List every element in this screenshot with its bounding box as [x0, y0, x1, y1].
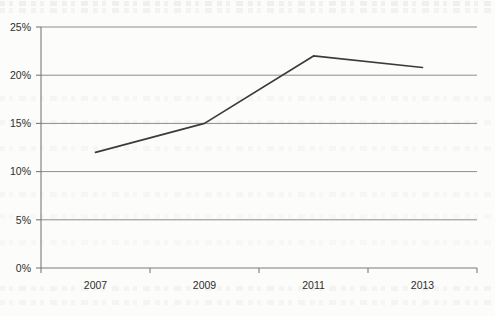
x-axis-tick-label: 2013: [411, 279, 435, 291]
y-axis-tick-label: 15%: [10, 117, 31, 129]
plot-area: 25%20%15%10%5%0% 2007200920112013: [0, 0, 495, 316]
x-axis-tick-label: 2007: [84, 279, 108, 291]
y-axis-tick-label: 25%: [10, 21, 31, 33]
line-chart-figure: 25%20%15%10%5%0% 2007200920112013: [0, 0, 495, 316]
data-series-line: [96, 56, 423, 152]
gridline-group: [41, 27, 477, 220]
x-axis-tick-label: 2011: [302, 279, 325, 291]
y-axis-tick-label: 5%: [16, 214, 31, 226]
y-axis-tick-group: [36, 27, 41, 268]
y-axis-tick-label: 20%: [10, 69, 31, 81]
y-axis-label-group: 25%20%15%10%5%0%: [10, 21, 31, 274]
y-axis-tick-label: 10%: [10, 165, 31, 177]
x-axis-tick-group: [41, 268, 477, 273]
y-axis-tick-label: 0%: [16, 262, 31, 274]
x-axis-label-group: 2007200920112013: [84, 279, 435, 291]
x-axis-tick-label: 2009: [193, 279, 217, 291]
